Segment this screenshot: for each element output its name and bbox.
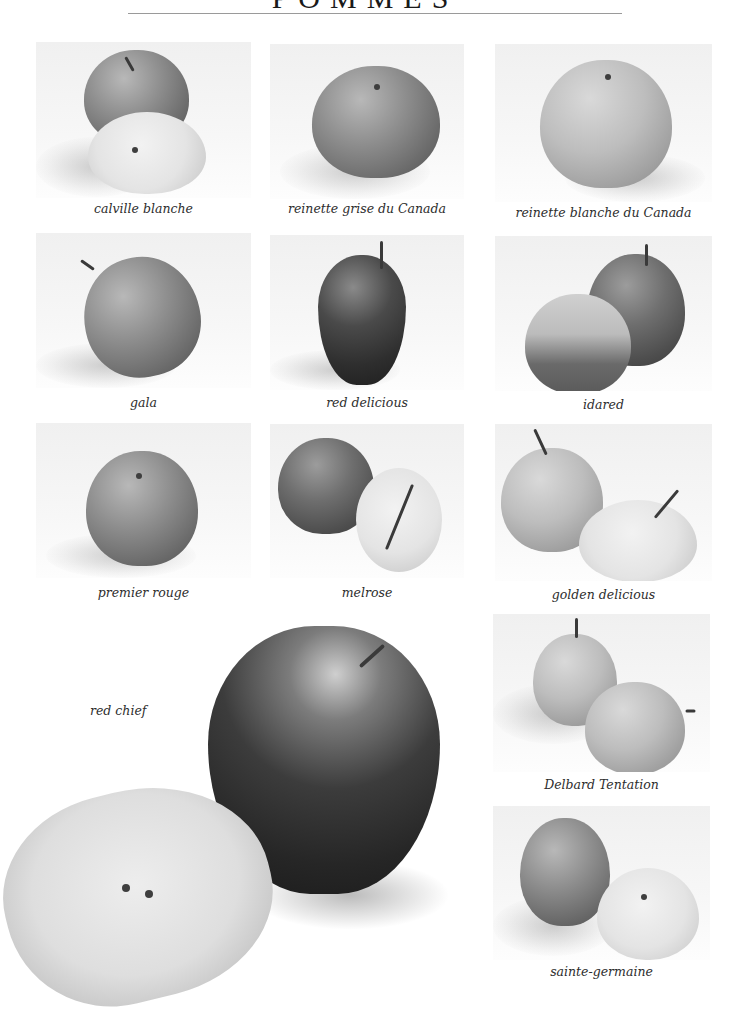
photo-calville-blanche xyxy=(36,42,251,198)
title-rule-divider xyxy=(128,13,622,14)
photo-reinette-grise-du-canada xyxy=(270,44,464,199)
photo-premier-rouge xyxy=(36,423,251,578)
caption-gala: gala xyxy=(36,395,251,410)
photo-idared xyxy=(495,236,712,391)
caption-sainte-germaine: sainte-germaine xyxy=(493,964,710,979)
caption-red-chief: red chief xyxy=(90,703,170,718)
page-title: POMMES xyxy=(0,0,730,12)
caption-melrose: melrose xyxy=(270,585,464,600)
red-chief-seed xyxy=(145,890,153,898)
caption-reinette-blanche-du-canada: reinette blanche du Canada xyxy=(495,205,712,220)
caption-red-delicious: red delicious xyxy=(270,395,464,410)
photo-gala xyxy=(36,233,251,388)
photo-delbard-tentation xyxy=(493,614,710,772)
caption-idared: idared xyxy=(495,397,712,412)
caption-calville-blanche: calville blanche xyxy=(36,201,251,216)
red-chief-seed xyxy=(122,884,130,892)
photo-melrose xyxy=(270,424,464,578)
caption-premier-rouge: premier rouge xyxy=(36,585,251,600)
caption-golden-delicious: golden delicious xyxy=(495,587,712,602)
photo-reinette-blanche-du-canada xyxy=(495,44,712,202)
caption-reinette-grise-du-canada: reinette grise du Canada xyxy=(270,201,464,216)
photo-red-delicious xyxy=(270,235,464,390)
photo-golden-delicious xyxy=(495,424,712,581)
photo-sainte-germaine xyxy=(493,806,710,960)
caption-delbard-tentation: Delbard Tentation xyxy=(493,777,710,792)
